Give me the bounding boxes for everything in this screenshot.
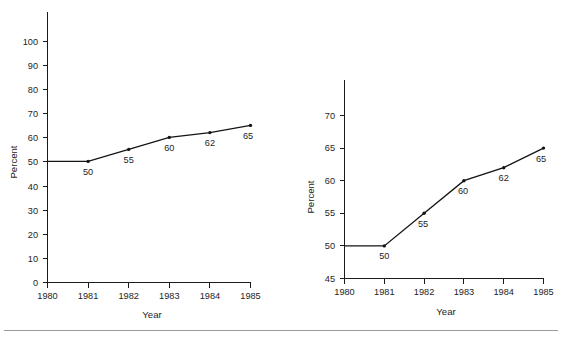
- left-x-tick-label: 1981: [78, 291, 98, 301]
- left-x-ticks: [48, 283, 251, 288]
- left-x-tick-label: 1980: [37, 291, 57, 301]
- right-y-tick-label: 50: [325, 241, 335, 251]
- left-point-label: 60: [164, 143, 174, 153]
- left-y-tick-label: 90: [28, 61, 38, 71]
- right-x-tick-label: 1980: [334, 287, 354, 297]
- left-point-label: 50: [83, 167, 93, 177]
- right-x-tick-labels: 1980 1981 1982 1983 1984 1985: [334, 287, 553, 297]
- right-x-axis-title: Year: [436, 306, 456, 317]
- right-y-tick-label: 55: [325, 208, 335, 218]
- left-y-tick-label: 10: [28, 254, 38, 264]
- left-x-axis-title: Year: [142, 309, 162, 320]
- left-y-tick-label: 100: [23, 37, 38, 47]
- left-y-tick-label: 80: [28, 85, 38, 95]
- left-x-tick-label: 1982: [118, 291, 138, 301]
- right-y-tick-label: 65: [325, 143, 335, 153]
- right-line-chart: 45 50 55 60 65 70 1980 1981 1982 1983 19…: [281, 0, 562, 330]
- right-x-tick-label: 1981: [374, 287, 394, 297]
- left-x-tick-label: 1984: [200, 291, 220, 301]
- left-point-label: 62: [205, 138, 215, 148]
- right-point-label: 50: [379, 251, 389, 261]
- right-x-tick-label: 1985: [533, 287, 553, 297]
- left-point-label: 65: [243, 131, 253, 141]
- right-data-markers: [383, 146, 546, 247]
- right-x-ticks: [345, 279, 544, 284]
- right-data-line: [345, 148, 544, 246]
- left-y-tick-label: 60: [28, 133, 38, 143]
- right-y-tick-label: 70: [325, 111, 335, 121]
- left-x-tick-label: 1983: [159, 291, 179, 301]
- right-x-tick-label: 1984: [493, 287, 513, 297]
- left-y-tick-label: 30: [28, 206, 38, 216]
- right-x-tick-label: 1983: [454, 287, 474, 297]
- bottom-divider-rule: [4, 330, 558, 331]
- figure-root: 0 10 20 30 40 50 60 70 80 90 100 1980 19…: [0, 0, 562, 338]
- right-y-tick-label: 45: [325, 274, 335, 284]
- left-y-axis-title: Percent: [8, 145, 19, 178]
- left-y-ticks: [43, 42, 48, 283]
- left-y-tick-labels: 0 10 20 30 40 50 60 70 80 90 100: [23, 37, 38, 288]
- right-x-tick-label: 1982: [414, 287, 434, 297]
- left-point-label: 55: [124, 155, 134, 165]
- left-data-line: [48, 125, 251, 161]
- left-y-tick-label: 20: [28, 230, 38, 240]
- right-point-label: 55: [418, 219, 428, 229]
- right-y-axis-title: Percent: [305, 180, 316, 213]
- right-point-label: 65: [536, 154, 546, 164]
- right-y-ticks: [340, 116, 345, 279]
- left-y-tick-label: 50: [28, 157, 38, 167]
- left-y-tick-label: 70: [28, 109, 38, 119]
- left-x-tick-labels: 1980 1981 1982 1983 1984 1985: [37, 291, 260, 301]
- left-y-tick-label: 40: [28, 182, 38, 192]
- right-y-tick-labels: 45 50 55 60 65 70: [325, 111, 335, 284]
- right-point-label: 60: [458, 186, 468, 196]
- right-point-label: 62: [499, 173, 509, 183]
- left-y-tick-label: 0: [33, 278, 38, 288]
- left-x-tick-label: 1985: [240, 291, 260, 301]
- right-point-labels: 50 55 60 62 65: [379, 154, 546, 261]
- right-y-tick-label: 60: [325, 176, 335, 186]
- left-line-chart: 0 10 20 30 40 50 60 70 80 90 100 1980 19…: [0, 0, 281, 330]
